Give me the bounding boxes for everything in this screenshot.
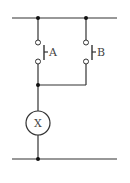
junction-dot: [84, 16, 88, 20]
contact-icon: [36, 59, 41, 64]
switch-a: A: [36, 18, 59, 85]
load-label: X: [34, 117, 42, 130]
contact-icon: [84, 40, 89, 45]
switch-a-label: A: [48, 46, 58, 59]
circuit-diagram: A B X: [0, 0, 130, 183]
contact-icon: [84, 59, 89, 64]
contact-icon: [36, 40, 41, 45]
junction-dot: [36, 83, 40, 87]
junction-dot: [36, 16, 40, 20]
switch-b: B: [84, 18, 106, 85]
junction-dot: [36, 157, 40, 161]
switch-b-label: B: [97, 46, 105, 59]
load-x: X: [26, 111, 50, 135]
